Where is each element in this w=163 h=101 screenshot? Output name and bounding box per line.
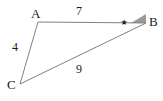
star-angle-marker: ★ [120,18,127,27]
angle-wedge-at-b [131,14,146,23]
vertex-label-b: B [149,15,158,28]
side-cb-line [20,23,146,84]
vertex-label-a: A [31,7,40,20]
side-length-label-ac: 4 [12,41,18,53]
side-ac-line [20,22,38,84]
vertex-label-c: C [7,78,16,91]
side-length-label-ab: 7 [76,5,82,17]
side-ab-line [38,22,146,23]
geometry-figure: ★ A B C 7 4 9 [0,0,163,101]
side-length-label-cb: 9 [76,63,82,75]
